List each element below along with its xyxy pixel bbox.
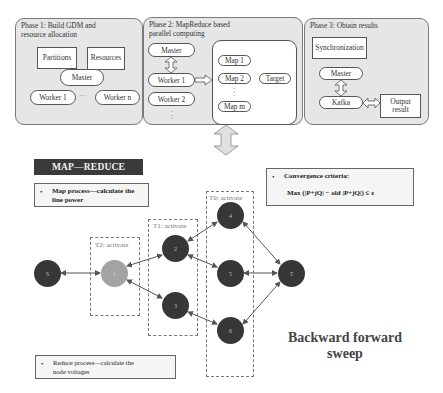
node-1: 1 (101, 260, 128, 287)
backward-forward-sweep-label: Backward forward sweep (285, 330, 405, 362)
phase3-master-kafka-double-arrow (335, 80, 347, 96)
phase2-master-worker-double-arrow (165, 57, 177, 73)
node-2: 2 (162, 235, 189, 262)
worker-to-map-arrow (195, 75, 212, 85)
node-5: 5 (217, 260, 244, 287)
node-t: T (278, 260, 305, 287)
node-4: 4 (217, 202, 244, 229)
node-s: S (34, 260, 61, 287)
node-6: 6 (217, 317, 244, 344)
node-3: 3 (162, 292, 189, 319)
kafka-output-double-arrow (363, 98, 380, 108)
phases-to-mapreduce-double-arrow (214, 125, 238, 155)
